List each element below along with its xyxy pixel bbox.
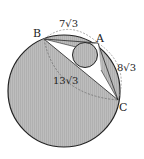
- label-b: B: [33, 27, 41, 40]
- label-c: C: [119, 101, 127, 114]
- geometry-diagram: B A C 7√3 8√3 13√3: [0, 0, 144, 159]
- length-ac: 8√3: [117, 62, 136, 73]
- length-bc: 13√3: [53, 75, 78, 86]
- length-ab: 7√3: [59, 18, 78, 29]
- small-circle: [73, 43, 98, 68]
- label-a: A: [95, 32, 105, 45]
